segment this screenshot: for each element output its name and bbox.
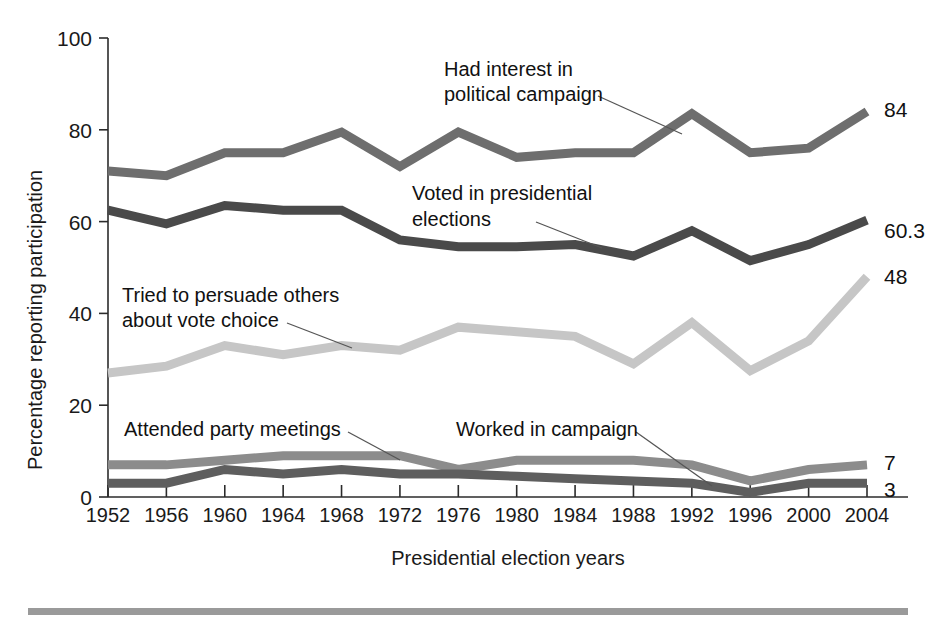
x-tick-label: 1952 — [86, 504, 131, 526]
x-tick-label: 1972 — [378, 504, 423, 526]
end-label-interest: 84 — [884, 98, 908, 121]
y-tick-label: 40 — [69, 302, 92, 325]
x-tick-label: 1964 — [261, 504, 306, 526]
x-tick-label: 1956 — [144, 504, 189, 526]
y-axis-title: Percentage reporting participation — [24, 170, 46, 470]
annotation-meetings: Attended party meetings — [124, 418, 341, 440]
y-tick-marks — [99, 38, 108, 497]
end-label-voted: 60.3 — [884, 219, 925, 242]
footer-divider — [28, 608, 908, 615]
annotation-persuade-line1: Tried to persuade others — [122, 284, 339, 306]
x-tick-label: 2000 — [786, 504, 831, 526]
annotation-persuade-line2: about vote choice — [122, 309, 279, 331]
x-tick-label: 1988 — [611, 504, 656, 526]
annotation-worked: Worked in campaign — [456, 418, 638, 440]
y-tick-label: 80 — [69, 119, 92, 142]
x-axis-title: Presidential election years — [391, 547, 624, 569]
y-tick-label: 60 — [69, 211, 92, 234]
annotation-interest-line1: Had interest in — [444, 58, 573, 80]
x-tick-labels: 1952195619601964196819721976198019841988… — [86, 504, 890, 526]
leader-line-persuade — [287, 323, 352, 348]
annotation-voted-line1: Voted in presidential — [412, 182, 592, 204]
x-tick-label: 1996 — [728, 504, 773, 526]
x-tick-label: 1984 — [553, 504, 598, 526]
end-value-labels: 84 60.3 48 7 3 — [884, 98, 925, 501]
end-label-meetings: 7 — [884, 451, 896, 474]
x-tick-label: 2004 — [845, 504, 890, 526]
chart-figure: 020406080100 195219561960196419681972197… — [0, 0, 935, 624]
y-tick-label: 20 — [69, 394, 92, 417]
x-tick-label: 1980 — [494, 504, 539, 526]
end-label-persuade: 48 — [884, 265, 907, 288]
x-tick-label: 1968 — [319, 504, 364, 526]
x-tick-label: 1960 — [203, 504, 248, 526]
y-tick-labels: 020406080100 — [57, 27, 92, 509]
x-tick-label: 1992 — [670, 504, 715, 526]
x-tick-label: 1976 — [436, 504, 481, 526]
annotation-interest-line2: political campaign — [444, 83, 603, 105]
y-tick-label: 100 — [57, 27, 92, 50]
end-label-worked: 3 — [884, 478, 896, 501]
line-chart-canvas: 020406080100 195219561960196419681972197… — [0, 0, 935, 624]
annotation-voted-line2: elections — [412, 208, 491, 230]
series-line — [108, 111, 867, 175]
leader-line-interest — [598, 96, 682, 134]
